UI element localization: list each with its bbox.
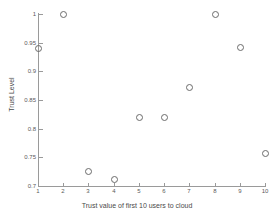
x-tick-label: 6 xyxy=(154,188,174,195)
x-axis-line xyxy=(38,186,266,187)
plot-area xyxy=(38,14,265,186)
data-point-marker xyxy=(212,11,219,18)
y-tick-label: 1 xyxy=(2,11,36,18)
x-tick-label: 4 xyxy=(104,188,124,195)
data-point-marker xyxy=(161,114,168,121)
y-axis-title: Trust Level xyxy=(7,40,16,150)
y-tick-label: 0.75 xyxy=(2,154,36,161)
data-point-marker xyxy=(35,45,42,52)
x-tick-label: 9 xyxy=(230,188,250,195)
data-point-marker xyxy=(136,114,143,121)
x-tick-label: 2 xyxy=(53,188,73,195)
x-tick-label: 3 xyxy=(78,188,98,195)
data-point-marker xyxy=(85,168,92,175)
data-point-marker xyxy=(237,44,244,51)
data-point-marker xyxy=(111,176,118,183)
y-tick-mark xyxy=(39,186,43,187)
scatter-chart: 0.70.750.80.850.90.951 12345678910 Trust… xyxy=(0,0,274,224)
x-tick-label: 1 xyxy=(28,188,48,195)
x-tick-label: 8 xyxy=(205,188,225,195)
x-axis-title: Trust value of first 10 users to cloud xyxy=(0,201,274,210)
x-tick-label: 5 xyxy=(129,188,149,195)
x-tick-mark xyxy=(265,183,266,187)
data-point-marker xyxy=(262,150,269,157)
x-tick-label: 10 xyxy=(255,188,274,195)
x-tick-label: 7 xyxy=(179,188,199,195)
